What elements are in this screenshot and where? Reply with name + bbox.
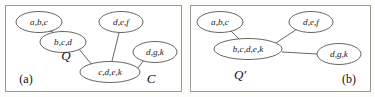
rewritten-query-label: Q′ — [234, 67, 246, 82]
query-graph-label: Q — [61, 48, 71, 63]
node-bcdek-label: b,c,d,e,k — [233, 44, 265, 54]
node-def[interactable]: d,e,f — [99, 12, 143, 33]
panel-b-tag: (b) — [342, 72, 356, 86]
panel-a: a,b,cb,c,dd,e,fc,d,e,kd,g,kQC(a) — [6, 6, 182, 92]
panel-b: a,b,cb,c,d,e,kd,e,fd,g,kQ′(b) — [191, 6, 371, 92]
figure-container: a,b,cb,c,dd,e,fc,d,e,kd,g,kQC(a)a,b,cb,c… — [0, 0, 375, 97]
node-dgk[interactable]: d,g,k — [133, 42, 177, 63]
node-dgk-label: d,g,k — [330, 49, 349, 59]
panel-a-tag: (a) — [19, 72, 32, 86]
node-cdek-label: c,d,e,k — [98, 67, 123, 77]
node-abc-label: a,b,c — [211, 17, 229, 27]
node-bcd-label: b,c,d — [54, 37, 72, 47]
node-def[interactable]: d,e,f — [289, 12, 333, 33]
node-def-label: d,e,f — [113, 17, 130, 27]
node-bcdek[interactable]: b,c,d,e,k — [214, 39, 282, 60]
figure-canvas: a,b,cb,c,dd,e,fc,d,e,kd,g,kQC(a)a,b,cb,c… — [0, 0, 375, 97]
node-abc-label: a,b,c — [30, 17, 48, 27]
node-abc[interactable]: a,b,c — [197, 12, 243, 33]
node-cdek[interactable]: c,d,e,k — [80, 62, 140, 83]
node-dgk-label: d,g,k — [146, 47, 165, 57]
node-def-label: d,e,f — [303, 17, 320, 27]
node-dgk[interactable]: d,g,k — [317, 44, 361, 65]
data-graph-label: C — [147, 71, 156, 86]
node-abc[interactable]: a,b,c — [16, 12, 62, 33]
